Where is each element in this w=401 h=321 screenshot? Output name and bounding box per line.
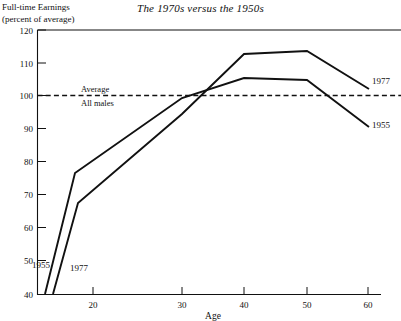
series-label-1977-left: 1977 [70, 263, 89, 273]
chart-container: Full-time Earnings (percent of average) … [0, 0, 401, 321]
y-tick-labels: 120 110 100 90 80 70 60 50 40 [20, 26, 34, 301]
plot-area: 120 110 100 90 80 70 60 50 40 20 30 40 5… [0, 0, 401, 321]
reference-label-all-males: All males [81, 98, 114, 108]
x-tick-marks [93, 287, 368, 295]
y-tick-label: 40 [24, 290, 34, 300]
x-tick-labels: 20 30 40 50 60 [89, 300, 374, 310]
x-tick-label: 50 [303, 300, 313, 310]
y-tick-label: 120 [20, 26, 34, 36]
x-tick-label: 60 [364, 300, 374, 310]
y-tick-label: 100 [20, 91, 34, 101]
data-line-1955 [45, 78, 369, 294]
y-tick-label: 90 [24, 124, 34, 134]
x-tick-label: 40 [240, 300, 250, 310]
series-label-1977-right: 1977 [372, 76, 391, 86]
reference-label-average: Average [81, 84, 109, 94]
series-label-1955-right: 1955 [372, 120, 391, 130]
y-tick-label: 110 [20, 59, 34, 69]
y-tick-label: 70 [24, 190, 34, 200]
y-tick-label: 80 [24, 157, 34, 167]
x-axis-title: Age [205, 311, 221, 321]
x-tick-label: 20 [89, 300, 99, 310]
series-label-1955-left: 1955 [32, 260, 51, 270]
y-tick-label: 60 [24, 223, 34, 233]
y-tick-marks [38, 30, 47, 295]
x-tick-label: 30 [178, 300, 188, 310]
